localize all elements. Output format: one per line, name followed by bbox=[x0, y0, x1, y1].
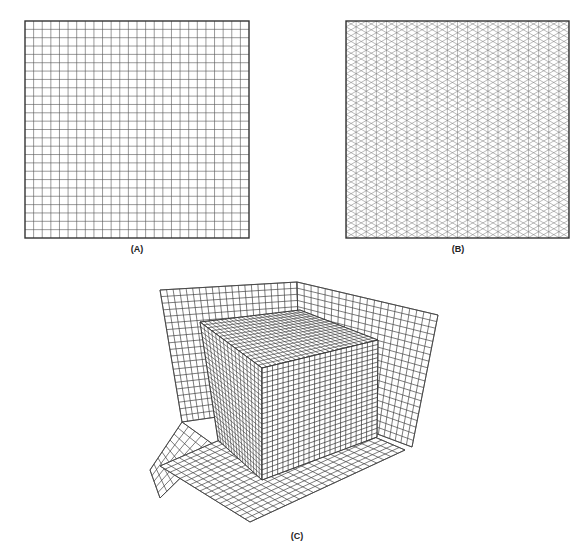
panel-b-label: (B) bbox=[452, 244, 465, 254]
panel-a-label: (A) bbox=[131, 244, 144, 254]
panel-c-label: (C) bbox=[291, 531, 304, 541]
figure-canvas bbox=[0, 0, 588, 555]
panel-c-3d-mesh bbox=[150, 282, 438, 522]
panel-a-square-grid bbox=[25, 21, 249, 238]
